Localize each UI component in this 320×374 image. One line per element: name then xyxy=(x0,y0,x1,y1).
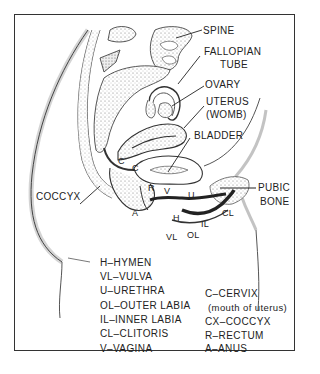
legend-item-note: (mouth of uterus) xyxy=(208,302,287,313)
legend-item: IL–INNER LABIA xyxy=(100,314,182,325)
label-vl-vulva: VL xyxy=(166,232,178,243)
legend-item: C–CERVIX xyxy=(205,288,258,299)
label-fallopian-line2: TUBE xyxy=(220,59,248,70)
label-bladder: BLADDER xyxy=(194,130,243,141)
label-ovary: OVARY xyxy=(205,79,241,90)
label-cl-clitoris: CL xyxy=(222,208,234,219)
label-il-inner-labia: IL xyxy=(201,219,209,230)
label-uterus-line1: UTERUS xyxy=(206,96,249,107)
legend-item: CL–CLITORIS xyxy=(100,328,169,339)
label-fallopian-line1: FALLOPIAN xyxy=(204,46,261,57)
label-pubic-line2: BONE xyxy=(260,196,290,207)
legend-item: OL–OUTER LABIA xyxy=(100,300,191,311)
label-r-rectum: R xyxy=(148,183,155,194)
label-spine: SPINE xyxy=(203,25,235,36)
legend-item: R–RECTUM xyxy=(205,330,264,341)
label-ol-outer-labia: OL xyxy=(187,230,200,241)
label-a-anus: A xyxy=(132,208,138,219)
legend-item: CX–COCCYX xyxy=(205,316,271,327)
legend-item: H–HYMEN xyxy=(100,257,152,268)
label-h-hymen: H xyxy=(173,213,180,224)
legend-item: V–VAGINA xyxy=(100,343,152,354)
legend-item: A–ANUS xyxy=(205,343,247,354)
legend-item: U–URETHRA xyxy=(100,285,165,296)
label-c-cervix-1: C xyxy=(118,156,125,167)
label-c-cervix-2: C xyxy=(132,163,139,174)
label-coccyx: COCCYX xyxy=(36,191,81,202)
label-v-vagina: V xyxy=(164,186,170,197)
label-uterus-line2: (WOMB) xyxy=(206,109,247,120)
label-u-urethra: U xyxy=(188,190,195,201)
label-pubic-line1: PUBIC xyxy=(258,182,290,193)
legend-item: VL–VULVA xyxy=(100,271,152,282)
